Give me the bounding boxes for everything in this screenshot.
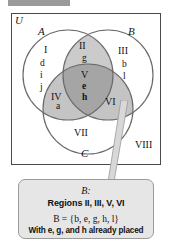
region-label-V: V: [81, 70, 88, 80]
region-label-VII: VII: [74, 128, 88, 138]
element-i: i: [40, 71, 43, 81]
top-gray-bar: [8, 0, 70, 6]
element-a: a: [56, 102, 60, 112]
element-b: b: [122, 60, 127, 70]
set-label-A: A: [38, 26, 45, 37]
region-label-VI: VI: [105, 97, 116, 107]
callout-regions-line: Regions II, III, V, VI: [19, 198, 153, 208]
callout-box: B: Regions II, III, V, VI B = {b, e, g, …: [18, 179, 154, 239]
element-e: e: [82, 82, 86, 92]
callout-set-line: B = {b, e, g, h, l}: [19, 214, 153, 224]
element-h: h: [82, 93, 87, 103]
region-label-I: I: [44, 45, 47, 55]
element-g: g: [82, 54, 87, 64]
region-label-II: II: [79, 41, 86, 51]
callout-title: B:: [19, 185, 153, 196]
figure-root: U: [0, 0, 172, 242]
element-l: l: [123, 72, 126, 82]
element-j: j: [40, 83, 43, 93]
region-label-III: III: [118, 46, 128, 56]
set-label-C: C: [81, 148, 88, 159]
set-label-B: B: [128, 26, 135, 37]
region-label-VIII: VIII: [135, 140, 152, 150]
callout-note-line: With e, g, and h already placed: [19, 226, 153, 235]
element-d: d: [40, 59, 45, 69]
